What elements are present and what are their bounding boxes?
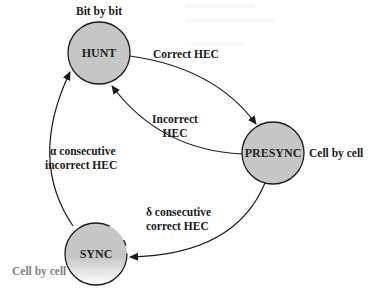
state-presync: PRESYNC: [242, 122, 304, 184]
label-alpha-line1: α consecutive: [50, 145, 116, 157]
hunt-annotation: Bit by bit: [76, 5, 122, 18]
label-incorrect-hec-line2: HEC: [163, 127, 188, 139]
state-sync: SYNC: [65, 223, 127, 285]
state-hunt: HUNT: [68, 22, 130, 84]
label-correct-hec: Correct HEC: [153, 48, 219, 60]
state-presync-label: PRESYNC: [245, 146, 302, 160]
state-sync-label: SYNC: [80, 247, 113, 261]
label-delta-line1: δ consecutive: [146, 206, 211, 218]
ghost-text: [185, 4, 275, 46]
label-alpha-line2: incorrect HEC: [45, 159, 117, 171]
state-diagram: HUNT PRESYNC SYNC Bit by bit Cell by cel…: [0, 0, 374, 289]
label-incorrect-hec-line1: Incorrect: [152, 113, 198, 125]
presync-annotation: Cell by cell: [309, 147, 363, 160]
label-delta-line2: correct HEC: [146, 220, 209, 232]
sync-annotation: Cell by cell: [12, 265, 66, 278]
state-hunt-label: HUNT: [82, 46, 117, 60]
